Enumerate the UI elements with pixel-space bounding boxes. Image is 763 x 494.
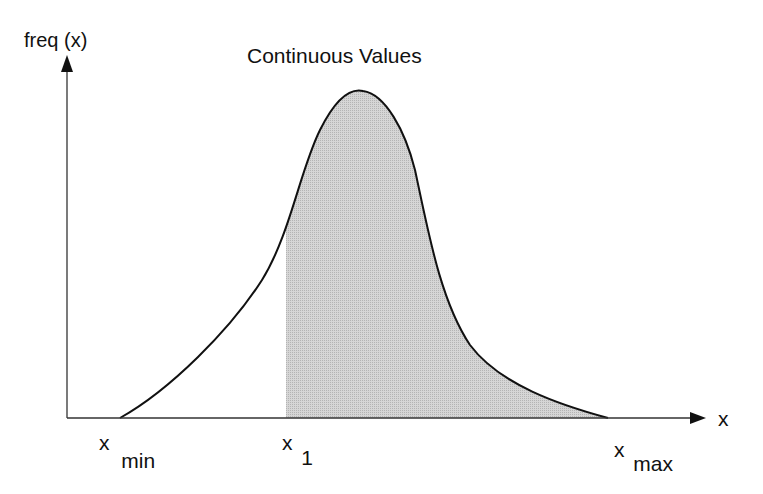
shaded-area: [120, 91, 608, 418]
y-axis-arrow-icon: [61, 55, 73, 72]
diagram-graphics: [0, 0, 763, 494]
tick-label-x1: x 1: [282, 432, 310, 453]
y-axis-label: freq (x): [24, 30, 87, 50]
tick-label-xmin: x min: [99, 432, 149, 453]
chart-title: Continuous Values: [247, 45, 422, 66]
tick-sub: max: [633, 452, 673, 475]
tick-sub: min: [121, 449, 155, 472]
tick-base: x: [614, 438, 625, 461]
x-axis-label: x: [718, 408, 729, 429]
x-axis-arrow-icon: [690, 412, 706, 424]
tick-base: x: [99, 431, 110, 454]
tick-base: x: [282, 431, 293, 454]
tick-label-xmax: x max: [614, 439, 670, 460]
distribution-diagram: freq (x) Continuous Values x x min x 1 x…: [0, 0, 763, 494]
tick-sub: 1: [301, 446, 313, 469]
